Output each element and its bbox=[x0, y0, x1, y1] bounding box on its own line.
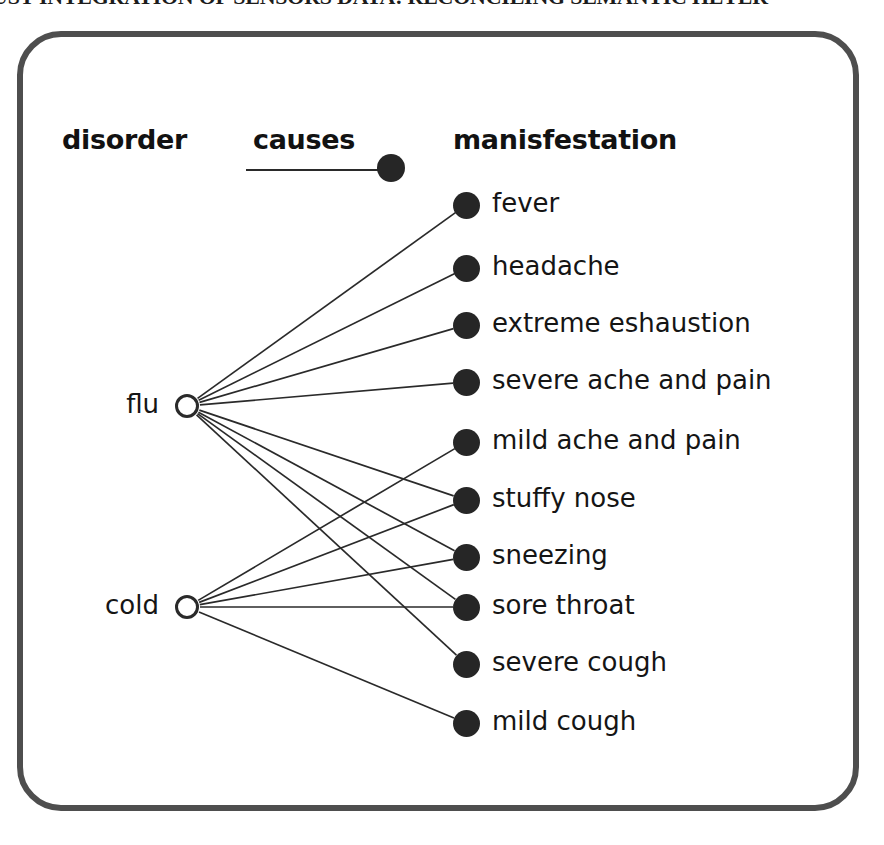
manifestation-label-extreme-eshaustion: extreme eshaustion bbox=[492, 308, 751, 338]
manifestation-label-stuffy-nose: stuffy nose bbox=[492, 483, 636, 513]
manifestation-label-mild-cough: mild cough bbox=[492, 706, 636, 736]
manifestation-node-headache[interactable] bbox=[453, 255, 480, 282]
manifestation-node-severe-cough[interactable] bbox=[453, 651, 480, 678]
caption-text: UST INTEGRATION OF SENSORS DATA: RECONCI… bbox=[0, 0, 768, 6]
manifestation-node-stuffy-nose[interactable] bbox=[453, 487, 480, 514]
manifestation-node-sore-throat[interactable] bbox=[453, 594, 480, 621]
manifestation-node-severe-ache-and-pain[interactable] bbox=[453, 369, 480, 396]
manifestation-label-sore-throat: sore throat bbox=[492, 590, 635, 620]
disorder-label-cold: cold bbox=[105, 590, 159, 620]
manifestation-node-mild-ache-and-pain[interactable] bbox=[453, 429, 480, 456]
manifestation-node-extreme-eshaustion[interactable] bbox=[453, 312, 480, 339]
column-header-causes: causes bbox=[253, 124, 355, 155]
manifestation-label-mild-ache-and-pain: mild ache and pain bbox=[492, 425, 741, 455]
manifestation-label-severe-cough: severe cough bbox=[492, 647, 667, 677]
manifestation-label-severe-ache-and-pain: severe ache and pain bbox=[492, 365, 772, 395]
manifestation-label-fever: fever bbox=[492, 188, 559, 218]
disorder-label-flu: flu bbox=[126, 389, 159, 419]
column-header-manifestation: manisfestation bbox=[453, 124, 677, 155]
manifestation-node-mild-cough[interactable] bbox=[453, 710, 480, 737]
manifestation-label-sneezing: sneezing bbox=[492, 540, 608, 570]
disorder-node-cold[interactable] bbox=[175, 595, 199, 619]
cropped-page-caption: UST INTEGRATION OF SENSORS DATA: RECONCI… bbox=[0, 0, 884, 17]
manifestation-node-fever[interactable] bbox=[453, 192, 480, 219]
manifestation-node-sneezing[interactable] bbox=[453, 544, 480, 571]
column-header-disorder: disorder bbox=[62, 124, 187, 155]
manifestation-label-headache: headache bbox=[492, 251, 620, 281]
disorder-node-flu[interactable] bbox=[175, 394, 199, 418]
